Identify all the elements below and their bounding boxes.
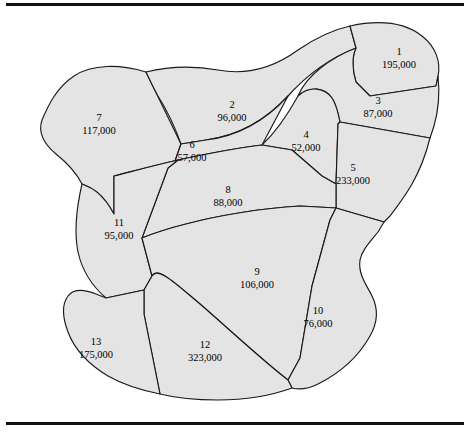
region-7-number: 7 bbox=[96, 112, 101, 123]
region-4-number: 4 bbox=[303, 129, 309, 140]
region-5-value: 233,000 bbox=[336, 175, 370, 186]
region-13-value: 175,000 bbox=[79, 349, 113, 360]
region-8-value: 88,000 bbox=[214, 197, 243, 208]
region-12-value: 323,000 bbox=[188, 352, 222, 363]
region-9-value: 106,000 bbox=[240, 279, 274, 290]
region-9-number: 9 bbox=[254, 266, 259, 277]
region-5-number: 5 bbox=[350, 162, 355, 173]
region-11-value: 95,000 bbox=[105, 230, 134, 241]
regional-map-figure: 1 195,000 2 96,000 3 87,000 4 52,000 5 2… bbox=[0, 8, 470, 418]
region-12-number: 12 bbox=[200, 339, 211, 350]
region-2-value: 96,000 bbox=[218, 112, 247, 123]
region-13-number: 13 bbox=[91, 336, 102, 347]
region-3-value: 87,000 bbox=[364, 108, 393, 119]
figure-page: 1 195,000 2 96,000 3 87,000 4 52,000 5 2… bbox=[0, 0, 470, 435]
region-7-value: 117,000 bbox=[82, 125, 116, 136]
region-6-number: 6 bbox=[189, 139, 194, 150]
top-horizontal-rule bbox=[6, 3, 464, 6]
region-10-value: 76,000 bbox=[304, 318, 333, 329]
region-1-value: 195,000 bbox=[382, 59, 416, 70]
region-2-number: 2 bbox=[229, 99, 234, 110]
region-1-number: 1 bbox=[396, 46, 401, 57]
bottom-horizontal-rule bbox=[6, 422, 464, 425]
region-6-value: 57,000 bbox=[178, 152, 207, 163]
map-canvas: 1 195,000 2 96,000 3 87,000 4 52,000 5 2… bbox=[0, 8, 470, 418]
region-10-number: 10 bbox=[313, 305, 324, 316]
region-8-number: 8 bbox=[225, 184, 230, 195]
region-3-number: 3 bbox=[375, 95, 380, 106]
region-11-number: 11 bbox=[114, 217, 124, 228]
region-4-value: 52,000 bbox=[292, 142, 321, 153]
